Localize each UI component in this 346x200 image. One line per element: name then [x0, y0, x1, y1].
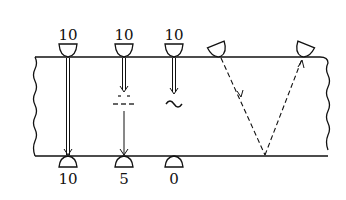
beam-2: [113, 58, 134, 155]
probe-icon: [59, 156, 77, 167]
probe-icon: [165, 44, 183, 57]
probe-icon: [115, 156, 133, 167]
probe-icon: [59, 44, 77, 57]
probe-icon: [115, 44, 133, 57]
left-break-edge: [34, 57, 37, 156]
top-label-2: 10: [114, 26, 133, 44]
probe-icon: [165, 156, 183, 167]
attenuation-wave-icon: [166, 101, 182, 107]
arrow-icon: [120, 86, 128, 92]
bottom-label-3: 0: [169, 170, 179, 188]
bottom-labels: 10 5 0: [58, 170, 178, 188]
beam-1: [64, 58, 72, 155]
top-labels: 10 10 10: [58, 26, 183, 44]
beam-3: [166, 58, 182, 107]
plate: [34, 57, 330, 156]
top-label-1: 10: [58, 26, 77, 44]
lamination-defect-icon: [113, 96, 134, 104]
top-label-3: 10: [164, 26, 183, 44]
arrow-icon: [298, 60, 304, 68]
arrow-icon: [64, 149, 72, 155]
right-break-edge: [320, 57, 330, 150]
ultrasonic-diagram: 10 10 10 10 5 0: [0, 0, 346, 200]
arrow-icon: [170, 88, 178, 94]
bottom-label-2: 5: [119, 170, 129, 188]
bottom-probes: [59, 156, 183, 167]
angle-beam-path: [221, 58, 304, 155]
bottom-label-1: 10: [58, 170, 77, 188]
